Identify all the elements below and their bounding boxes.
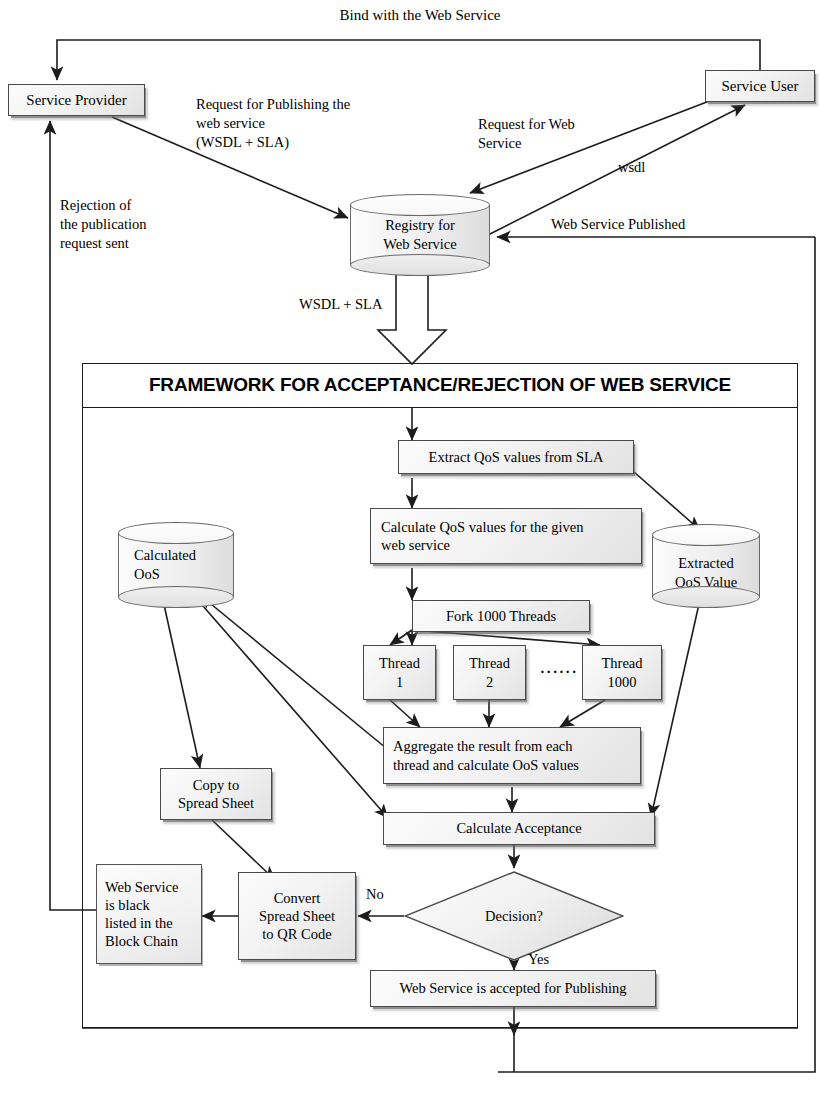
calculated-qos-line1: Calculated	[134, 546, 234, 565]
node-aggregate[interactable]: Aggregate the result from each thread an…	[383, 727, 641, 784]
cylinder-bottom	[350, 254, 490, 276]
calculated-qos-label: Calculated OoS	[118, 546, 234, 584]
node-service-user[interactable]: Service User	[705, 70, 815, 102]
registry-label: Registry for Web Service	[350, 216, 490, 254]
label-wsdl: wsdl	[618, 158, 678, 177]
block-arrow-wsdl-sla	[378, 272, 446, 364]
extracted-qos-line1: Extracted	[652, 554, 760, 573]
thread-2-line1: Thread	[469, 654, 510, 672]
thread-1-line1: Thread	[379, 654, 420, 672]
threads-ellipsis-label: ······	[540, 663, 578, 681]
calculate-qos-label: Calculate QoS values for the given web s…	[381, 518, 584, 554]
blacklist-line2: is black	[105, 896, 178, 914]
label-request-web-line2: Service	[478, 134, 628, 153]
copy-label: Copy to Spread Sheet	[178, 776, 254, 812]
cylinder-top	[350, 194, 490, 216]
node-thread-2[interactable]: Thread 2	[453, 645, 526, 700]
blacklist-line3: listed in the	[105, 914, 178, 932]
node-decision[interactable]: Decision?	[404, 871, 624, 961]
label-rejection-line1: Rejection of	[60, 196, 230, 215]
label-bind-with-web-service: Bind with the Web Service	[240, 6, 600, 26]
calculated-qos-line2: OoS	[134, 565, 234, 584]
convert-label: Convert Spread Sheet to QR Code	[259, 889, 335, 943]
node-calculate-acceptance[interactable]: Calculate Acceptance	[383, 812, 655, 845]
blacklist-line4: Block Chain	[105, 932, 178, 950]
registry-label-line1: Registry for	[350, 216, 490, 235]
node-thread-1[interactable]: Thread 1	[363, 645, 436, 700]
thread-1-line2: 1	[379, 673, 420, 691]
node-extract-qos[interactable]: Extract QoS values from SLA	[398, 440, 634, 474]
fork-threads-label: Fork 1000 Threads	[446, 607, 556, 625]
label-publish-line2: web service	[196, 114, 426, 133]
label-request-web-line1: Request for Web	[478, 115, 628, 134]
cylinder-top	[652, 524, 760, 546]
calculate-qos-line2: web service	[381, 536, 584, 554]
framework-title: FRAMEWORK FOR ACCEPTANCE/REJECTION OF WE…	[82, 363, 798, 408]
label-rejection-line3: request sent	[60, 234, 230, 253]
node-service-provider[interactable]: Service Provider	[8, 84, 145, 116]
node-fork-threads[interactable]: Fork 1000 Threads	[412, 600, 590, 632]
service-provider-label: Service Provider	[26, 91, 126, 110]
calculate-qos-line1: Calculate QoS values for the given	[381, 518, 584, 536]
convert-line3: to QR Code	[259, 925, 335, 943]
label-publish-line1: Request for Publishing the	[196, 95, 426, 114]
copy-line1: Copy to	[178, 776, 254, 794]
label-wsdl-sla: WSDL + SLA	[299, 295, 409, 314]
label-rejection: Rejection of the publication request sen…	[60, 196, 230, 253]
edge-bind-with-web-service	[57, 40, 760, 80]
decision-label: Decision?	[404, 871, 624, 961]
blacklist-label: Web Service is black listed in the Block…	[105, 878, 178, 951]
thread-1000-label: Thread 1000	[601, 654, 642, 690]
calculate-acceptance-label: Calculate Acceptance	[456, 819, 581, 837]
cylinder-top	[118, 522, 234, 544]
blacklist-line1: Web Service	[105, 878, 178, 896]
node-calculated-qos-store[interactable]: Calculated OoS	[118, 522, 234, 608]
aggregate-label: Aggregate the result from each thread an…	[393, 737, 579, 773]
diagram-canvas: Convert box --> accepted box --> FRAMEWO…	[0, 0, 834, 1102]
label-publish-request: Request for Publishing the web service (…	[196, 95, 426, 152]
service-user-label: Service User	[721, 77, 798, 96]
aggregate-line1: Aggregate the result from each	[393, 737, 579, 755]
node-registry-web-service[interactable]: Registry for Web Service	[350, 194, 490, 276]
extract-qos-label: Extract QoS values from SLA	[429, 448, 604, 466]
cylinder-bottom	[118, 586, 234, 608]
accepted-label: Web Service is accepted for Publishing	[399, 979, 626, 997]
label-request-web-service: Request for Web Service	[478, 115, 628, 153]
label-publish-line3: (WSDL + SLA)	[196, 133, 426, 152]
thread-1-label: Thread 1	[379, 654, 420, 690]
convert-line1: Convert	[259, 889, 335, 907]
thread-2-label: Thread 2	[469, 654, 510, 690]
registry-label-line2: Web Service	[350, 235, 490, 254]
cylinder-bottom	[652, 586, 760, 608]
node-calculate-qos[interactable]: Calculate QoS values for the given web s…	[370, 508, 642, 564]
threads-ellipsis: ······	[530, 660, 588, 684]
node-blacklist-blockchain[interactable]: Web Service is black listed in the Block…	[96, 864, 202, 964]
convert-line2: Spread Sheet	[259, 907, 335, 925]
thread-1000-line2: 1000	[601, 673, 642, 691]
thread-2-line2: 2	[469, 673, 510, 691]
node-extracted-qos-store[interactable]: Extracted OoS Value	[652, 524, 760, 608]
label-rejection-line2: the publication	[60, 215, 230, 234]
node-convert-to-qr[interactable]: Convert Spread Sheet to QR Code	[238, 872, 356, 960]
copy-line2: Spread Sheet	[178, 794, 254, 812]
node-accepted-for-publishing[interactable]: Web Service is accepted for Publishing	[370, 970, 656, 1007]
aggregate-line2: thread and calculate OoS values	[393, 756, 579, 774]
label-web-service-published: Web Service Published	[551, 215, 771, 234]
node-copy-to-spreadsheet[interactable]: Copy to Spread Sheet	[160, 768, 272, 820]
thread-1000-line1: Thread	[601, 654, 642, 672]
node-thread-1000[interactable]: Thread 1000	[582, 645, 662, 700]
label-no: No	[366, 885, 396, 904]
